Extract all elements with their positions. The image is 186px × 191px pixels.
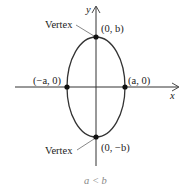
point-left-intercept: [64, 84, 69, 89]
vertex-top-annotation: Vertex: [45, 20, 72, 31]
left-intercept-label: (−a, 0): [33, 76, 61, 87]
x-axis-label: x: [170, 91, 175, 102]
vertex-bottom-annotation: Vertex: [45, 146, 72, 157]
point-top-vertex: [93, 34, 98, 39]
caption: a < b: [84, 175, 107, 186]
vertex-top-leader: [76, 25, 94, 36]
point-right-intercept: [122, 84, 127, 89]
ellipse-diagram: [0, 0, 186, 191]
top-vertex-label: (0, b): [101, 24, 124, 35]
bottom-vertex-label: (0, −b): [101, 143, 130, 154]
point-bottom-vertex: [93, 134, 98, 139]
vertex-bottom-leader: [77, 139, 94, 150]
y-axis-label: y: [86, 5, 91, 16]
right-intercept-label: (a, 0): [128, 76, 150, 87]
